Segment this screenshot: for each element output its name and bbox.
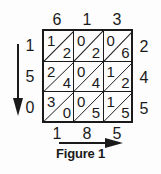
cell-ones: 2 — [63, 45, 71, 60]
lattice-cell: 1 2 — [44, 31, 74, 61]
figure-caption: Figure 1 — [0, 146, 161, 161]
cell-ones: 0 — [63, 105, 71, 120]
lattice-cell: 3 0 — [44, 91, 74, 121]
lattice-cell: 1 2 — [103, 61, 133, 91]
cell-ones: 4 — [63, 75, 71, 90]
cell-tens: 0 — [77, 64, 85, 79]
cell-tens: 1 — [107, 94, 115, 109]
left-digit: 5 — [22, 69, 38, 85]
left-digit: 1 — [22, 38, 38, 54]
lattice-grid: 1 2 0 2 0 6 2 4 0 4 1 2 — [42, 29, 133, 123]
right-digit: 5 — [136, 101, 152, 117]
lattice-cell: 0 4 — [73, 61, 103, 91]
cell-tens: 1 — [47, 33, 55, 48]
cell-tens: 0 — [107, 33, 115, 48]
cell-ones: 5 — [121, 105, 129, 120]
cell-tens: 3 — [47, 94, 55, 109]
cell-tens: 0 — [77, 94, 85, 109]
lattice-cell: 0 5 — [73, 91, 103, 121]
lattice-cell: 1 5 — [103, 91, 133, 121]
top-digit: 6 — [49, 12, 65, 28]
lattice-cell: 0 6 — [103, 31, 133, 61]
top-digit: 1 — [79, 12, 95, 28]
lattice-cell: 0 2 — [73, 31, 103, 61]
right-digit: 4 — [136, 70, 152, 86]
cell-ones: 6 — [121, 45, 129, 60]
down-arrow-icon — [12, 44, 24, 116]
cell-tens: 0 — [77, 33, 85, 48]
cell-tens: 2 — [47, 64, 55, 79]
cell-ones: 2 — [92, 45, 100, 60]
top-digit: 3 — [109, 12, 125, 28]
left-digit: 0 — [22, 100, 38, 116]
cell-ones: 5 — [92, 105, 100, 120]
cell-ones: 2 — [121, 75, 129, 90]
lattice-cell: 2 4 — [44, 61, 74, 91]
right-digit: 2 — [136, 39, 152, 55]
cell-ones: 4 — [92, 75, 100, 90]
cell-tens: 1 — [107, 64, 115, 79]
